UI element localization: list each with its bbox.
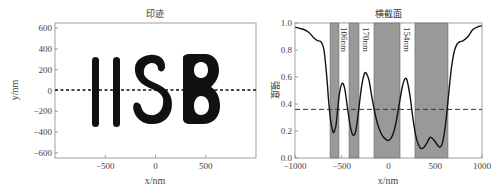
- shaded-region: [349, 23, 359, 158]
- x-tick-label: 1000: [473, 161, 492, 171]
- letter-i-1: [92, 57, 99, 127]
- y-tick-label: 0.4: [281, 99, 293, 109]
- x-tick-label: 0: [386, 161, 391, 171]
- imprint-chart-title: 印迹: [146, 8, 164, 19]
- shaded-region: [374, 23, 400, 158]
- y-tick-label: 1.0: [281, 18, 293, 28]
- width-annotation: 170nm: [361, 27, 371, 52]
- cross-section-x-axis-label: x/nm: [378, 175, 399, 186]
- x-tick-label: 0: [153, 161, 158, 171]
- imprint-x-axis-label: x/nm: [145, 175, 166, 186]
- y-tick-label: 0.8: [281, 45, 293, 55]
- y-tick-label: 0.2: [281, 126, 292, 136]
- letter-b: [183, 54, 220, 124]
- cross-section-chart: 横截面 106nm170nm154nm 0.00.20.40.60.81.0 −…: [270, 8, 492, 186]
- cross-section-y-ticks: 0.00.20.40.60.81.0: [281, 18, 298, 163]
- y-tick-label: 0.6: [281, 72, 293, 82]
- cross-section-chart-title: 横截面: [375, 8, 402, 19]
- figure: 印迹 6004002000−200−400−600 −5000500 x/nm …: [0, 0, 500, 189]
- imprint-y-axis-label: y/nm: [9, 80, 20, 101]
- y-tick-label: 400: [39, 44, 53, 54]
- imprint-chart: 印迹 6004002000−200−400−600 −5000500 x/nm …: [9, 8, 256, 186]
- width-annotation: 106nm: [339, 27, 349, 52]
- x-tick-label: −500: [332, 161, 351, 171]
- x-tick-label: −1000: [283, 161, 307, 171]
- shaded-region: [330, 23, 339, 158]
- y-tick-label: 200: [39, 65, 53, 75]
- cross-section-y-axis-label: 强度: [270, 81, 281, 99]
- imprint-x-ticks: −5000500: [96, 155, 213, 171]
- y-tick-label: −600: [33, 148, 52, 158]
- y-tick-label: −400: [33, 127, 52, 137]
- y-tick-label: 600: [39, 23, 53, 33]
- imprint-y-ticks: 6004002000−200−400−600: [33, 23, 58, 158]
- x-tick-label: 500: [429, 161, 443, 171]
- y-tick-label: 0: [48, 86, 53, 96]
- width-annotation: 154nm: [402, 27, 412, 52]
- x-tick-label: 500: [199, 161, 213, 171]
- y-tick-label: −200: [33, 106, 52, 116]
- letter-i-2: [113, 57, 120, 127]
- x-tick-label: −500: [96, 161, 115, 171]
